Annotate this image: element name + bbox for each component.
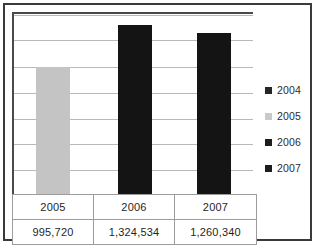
chart-data-table: 2005 2006 2007 995,720 1,324,534 1,260,3… bbox=[12, 194, 257, 245]
table-cell-value: 995,720 bbox=[13, 220, 94, 245]
legend-label: 2004 bbox=[277, 84, 301, 96]
chart-plot-area bbox=[12, 12, 253, 194]
legend-swatch-icon bbox=[265, 113, 272, 120]
bar-2007 bbox=[197, 33, 231, 194]
legend-item-2005[interactable]: 2005 bbox=[265, 103, 313, 129]
legend-item-2007[interactable]: 2007 bbox=[265, 155, 313, 181]
table-cell-value: 1,324,534 bbox=[94, 220, 175, 245]
table-cell-category: 2005 bbox=[13, 195, 94, 220]
table-cell-category: 2006 bbox=[94, 195, 175, 220]
chart-legend: 2004 2005 2006 2007 bbox=[265, 77, 313, 181]
bar-2006 bbox=[118, 25, 152, 194]
table-row-values: 995,720 1,324,534 1,260,340 bbox=[13, 220, 257, 245]
table-cell-value: 1,260,340 bbox=[175, 220, 257, 245]
legend-label: 2005 bbox=[277, 110, 301, 122]
chart-outer-frame: 2004 2005 2006 2007 2005 2006 2007 bbox=[3, 3, 312, 241]
legend-swatch-icon bbox=[265, 139, 272, 146]
bars-layer bbox=[14, 14, 253, 194]
chart-screenshot: 2004 2005 2006 2007 2005 2006 2007 bbox=[0, 0, 317, 245]
legend-label: 2006 bbox=[277, 136, 301, 148]
legend-item-2004[interactable]: 2004 bbox=[265, 77, 313, 103]
table-cell-category: 2007 bbox=[175, 195, 257, 220]
legend-label: 2007 bbox=[277, 162, 301, 174]
legend-swatch-icon bbox=[265, 165, 272, 172]
table-row-categories: 2005 2006 2007 bbox=[13, 195, 257, 220]
legend-swatch-icon bbox=[265, 87, 272, 94]
legend-item-2006[interactable]: 2006 bbox=[265, 129, 313, 155]
bar-2005 bbox=[36, 67, 70, 194]
